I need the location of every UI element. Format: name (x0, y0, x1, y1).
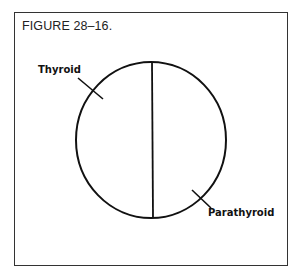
thyroid-pointer-icon (78, 78, 103, 99)
divider-line (152, 62, 153, 218)
thyroid-label: Thyroid (38, 64, 81, 75)
diagram-canvas (0, 0, 300, 273)
parathyroid-pointer-icon (192, 190, 211, 208)
parathyroid-label: Parathyroid (208, 207, 274, 218)
circle-outline (76, 62, 226, 218)
